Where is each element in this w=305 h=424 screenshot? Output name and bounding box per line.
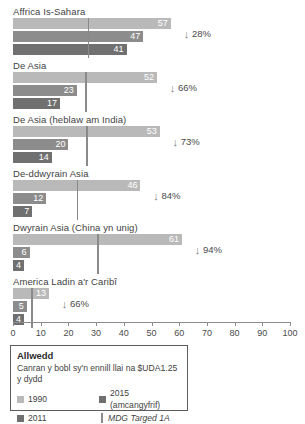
bar-row: 7 (13, 206, 305, 217)
reduction-annotation: ↓84% (152, 190, 180, 201)
legend-item[interactable]: 2015 (amcangyfrif) (99, 387, 181, 411)
bar-2015[interactable]: 12 (13, 193, 46, 204)
bar-row: 20 (13, 139, 305, 150)
bar-group: De Asia (heblaw am India)532014↓73% (0, 114, 305, 168)
legend-swatch-icon (17, 415, 24, 422)
axis-tick-label: 10 (36, 328, 46, 338)
x-axis: 0102030405060708090100 (0, 322, 305, 344)
axis-tick (41, 322, 42, 326)
reduction-annotation: ↓73% (172, 136, 200, 147)
bar-value-label: 4 (16, 260, 21, 271)
axis-tick-label: 80 (230, 328, 240, 338)
down-arrow-icon: ↓ (169, 84, 176, 93)
bars-container: 532014 (13, 126, 305, 165)
legend-swatch-icon (17, 396, 24, 403)
bar-row: 52 (13, 72, 305, 83)
axis-tick (13, 322, 14, 326)
bar-2011[interactable]: 14 (13, 152, 52, 163)
axis-tick (262, 322, 263, 326)
bar-value-label: 57 (158, 18, 168, 29)
bar-2015[interactable]: 20 (13, 139, 68, 150)
down-arrow-icon: ↓ (152, 192, 159, 201)
bar-row: 14 (13, 152, 305, 163)
legend-item-label: 1990 (28, 393, 47, 405)
axis-tick-label: 0 (10, 328, 15, 338)
legend-item[interactable]: MDG Targed 1A (99, 412, 181, 424)
legend-item-label: 2015 (amcangyfrif) (110, 387, 181, 411)
axis-tick-label: 50 (146, 328, 156, 338)
bar-2015[interactable]: 47 (13, 31, 143, 42)
axis-tick (68, 322, 69, 326)
reduction-percent: 28% (192, 28, 211, 39)
bar-2015[interactable]: 5 (13, 301, 27, 312)
axis-tick (207, 322, 208, 326)
bar-row: 5 (13, 301, 305, 312)
bars-container: 6164 (13, 234, 305, 273)
bar-row: 61 (13, 234, 305, 245)
group-label: America Ladin a'r Caribî (13, 276, 117, 287)
bar-value-label: 53 (147, 126, 157, 137)
reduction-annotation: ↓66% (169, 82, 197, 93)
bar-value-label: 5 (19, 301, 24, 312)
bar-value-label: 14 (39, 152, 49, 163)
bar-row: 17 (13, 98, 305, 109)
bar-2011[interactable]: 7 (13, 206, 32, 217)
bar-row: 4 (13, 260, 305, 271)
axis-tick-label: 20 (63, 328, 73, 338)
bar-value-label: 61 (169, 234, 179, 245)
legend-item-label: MDG Targed 1A (108, 412, 170, 424)
reduction-annotation: ↓28% (183, 28, 211, 39)
bar-2011[interactable]: 17 (13, 98, 60, 109)
axis-tick (290, 322, 291, 326)
bar-2015[interactable]: 6 (13, 247, 30, 258)
mdg-target-line (77, 180, 79, 220)
axis-tick (235, 322, 236, 326)
reduction-percent: 84% (161, 190, 180, 201)
bar-group: De-ddwyrain Asia46127↓84% (0, 168, 305, 222)
bar-group: Dwyrain Asia (China yn unig)6164↓94% (0, 222, 305, 276)
bar-row: 57 (13, 18, 305, 29)
bar-1990[interactable]: 57 (13, 18, 171, 29)
bar-value-label: 13 (36, 288, 46, 299)
bars-container: 522317 (13, 72, 305, 111)
axis-tick-label: 100 (282, 328, 297, 338)
axis-tick-label: 70 (202, 328, 212, 338)
reduction-percent: 66% (178, 82, 197, 93)
bar-value-label: 41 (114, 44, 124, 55)
legend-item[interactable]: 2011 (17, 412, 99, 424)
bar-row: 23 (13, 85, 305, 96)
bar-value-label: 46 (127, 180, 137, 191)
bar-row: 47 (13, 31, 305, 42)
axis-tick-label: 30 (91, 328, 101, 338)
bar-row: 53 (13, 126, 305, 137)
mdg-target-line (86, 126, 88, 166)
axis-tick-label: 40 (119, 328, 129, 338)
bar-2015[interactable]: 23 (13, 85, 77, 96)
legend-title: Allwedd (17, 350, 181, 361)
down-arrow-icon: ↓ (194, 246, 201, 255)
reduction-percent: 66% (70, 298, 89, 309)
axis-tick (124, 322, 125, 326)
axis-tick-label: 60 (174, 328, 184, 338)
mdg-target-line (85, 72, 87, 112)
bar-value-label: 47 (130, 31, 140, 42)
bars-container: 574741 (13, 18, 305, 57)
target-line-icon (101, 413, 103, 423)
group-label: Affrica Is-Sahara (13, 6, 85, 17)
bar-value-label: 20 (55, 139, 65, 150)
bar-2011[interactable]: 4 (13, 260, 24, 271)
legend-item[interactable]: 1990 (17, 387, 99, 411)
reduction-percent: 94% (203, 244, 222, 255)
mdg-target-line (97, 234, 99, 274)
down-arrow-icon: ↓ (172, 138, 179, 147)
bar-group: Affrica Is-Sahara574741↓28% (0, 6, 305, 60)
down-arrow-icon: ↓ (183, 30, 190, 39)
bar-2011[interactable]: 41 (13, 44, 127, 55)
bar-row: 41 (13, 44, 305, 55)
bar-value-label: 52 (144, 72, 154, 83)
axis-tick (179, 322, 180, 326)
axis-tick (152, 322, 153, 326)
legend-subtitle: Canran y bobl sy'n ennill llai na $UDA1.… (17, 363, 181, 384)
legend-box: Allwedd Canran y bobl sy'n ennill llai n… (10, 345, 188, 411)
bar-row: 6 (13, 247, 305, 258)
